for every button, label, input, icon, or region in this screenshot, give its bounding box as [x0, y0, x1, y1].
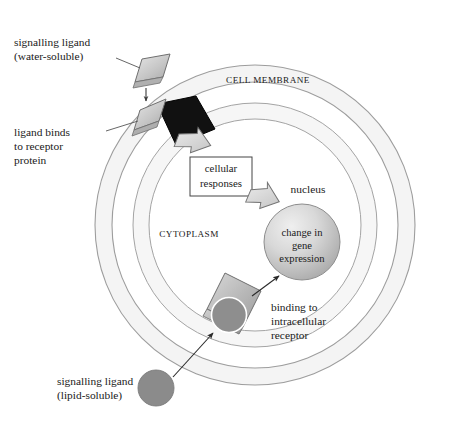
label-ligand-binds-line3: protein — [14, 154, 47, 166]
water-soluble-ligand-free — [133, 54, 170, 88]
cell-signalling-diagram: cellular responses change in gene expres… — [0, 0, 449, 433]
label-cytoplasm: CYTOPLASM — [159, 229, 219, 239]
label-binding-line2: intracellular — [271, 315, 326, 327]
gene-expression-line2: gene — [292, 240, 312, 251]
cellular-responses-line1: cellular — [205, 162, 238, 174]
diagram-canvas: cellular responses change in gene expres… — [0, 0, 449, 433]
cellular-responses-line2: responses — [200, 177, 242, 189]
gene-expression-line1: change in — [282, 227, 324, 238]
label-cell-membrane: CELL MEMBRANE — [226, 75, 310, 85]
label-ligand-binds-line1: ligand binds — [14, 126, 71, 138]
label-signalling-ligand-water-line1: signalling ligand — [14, 36, 91, 48]
label-nucleus: nucleus — [291, 183, 326, 195]
lipid-soluble-ligand-bound — [212, 298, 247, 333]
label-binding-line1: binding to — [271, 301, 318, 313]
label-signalling-ligand-lipid-line1: signalling ligand — [57, 375, 134, 387]
leader-line-water-ligand — [116, 58, 140, 68]
label-ligand-binds-line2: to receptor — [14, 140, 63, 152]
cellular-responses-box: cellular responses — [190, 157, 252, 196]
gene-expression-line3: expression — [279, 253, 325, 264]
label-signalling-ligand-water-line2: (water-soluble) — [14, 50, 84, 63]
label-signalling-ligand-lipid-line2: (lipid-soluble) — [57, 389, 122, 402]
lipid-soluble-ligand-free — [138, 370, 174, 406]
nucleus-sphere: change in gene expression — [264, 204, 340, 280]
label-binding-line3: receptor — [271, 329, 309, 341]
